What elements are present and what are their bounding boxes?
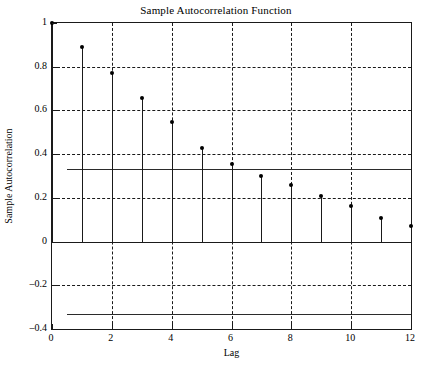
x-axis-tick-labels: 024681012 [51,333,412,347]
x-tick-label: 10 [330,333,370,343]
stem-line [411,226,412,241]
stem-line [112,73,113,241]
data-point-marker [170,120,174,124]
y-tick-mark [52,285,57,286]
x-tick-mark [172,324,173,329]
stem-line [172,122,173,241]
x-tick-label: 0 [31,333,71,343]
data-point-marker [230,162,234,166]
data-point-marker [80,45,84,49]
y-tick-label: 1 [3,17,47,27]
x-tick-mark [112,324,113,329]
stem-line [82,47,83,242]
data-point-marker [259,174,263,178]
x-tick-mark [52,324,53,329]
y-tick-mark [52,110,57,111]
gridline-vertical [291,23,292,329]
x-tick-label: 6 [211,333,251,343]
lower-confidence-bound [67,314,411,315]
data-point-marker [110,71,114,75]
x-tick-mark [411,324,412,329]
y-tick-mark [52,198,57,199]
stem-line [321,196,322,242]
x-tick-label: 4 [151,333,191,343]
x-tick-mark [291,324,292,329]
data-point-marker [409,224,413,228]
data-point-marker [349,204,353,208]
chart-title: Sample Autocorrelation Function [0,4,432,16]
stem-line [291,185,292,242]
y-tick-label: 0.8 [3,61,47,71]
y-tick-label: 0.2 [3,192,47,202]
zero-line [52,242,411,243]
y-tick-label: –0.4 [3,323,47,333]
stem-line [381,218,382,242]
data-point-marker [200,146,204,150]
data-point-marker [319,194,323,198]
stem-line [142,98,143,241]
y-tick-mark [52,67,57,68]
y-tick-label: 0 [3,236,47,246]
data-point-marker [140,96,144,100]
x-tick-label: 8 [270,333,310,343]
upper-confidence-bound [67,169,411,170]
stem-line [202,148,203,242]
plot-area [51,22,412,330]
stem-line [351,206,352,242]
stem-line [232,164,233,242]
data-point-marker [289,183,293,187]
gridline-vertical [351,23,352,329]
x-tick-label: 2 [91,333,131,343]
x-axis-label: Lag [51,347,412,358]
stem-line [261,176,262,242]
y-axis-tick-labels: –0.4–0.200.20.40.60.81 [0,22,47,330]
data-point-marker [379,216,383,220]
y-tick-label: –0.2 [3,279,47,289]
y-tick-mark [52,154,57,155]
stem-line [52,23,53,242]
x-tick-mark [232,324,233,329]
y-tick-mark [52,23,57,24]
y-tick-label: 0.6 [3,104,47,114]
x-tick-mark [351,324,352,329]
autocorrelation-figure: Sample Autocorrelation Function Sample A… [0,0,432,365]
y-tick-mark [52,242,57,243]
x-tick-label: 12 [390,333,430,343]
y-tick-mark [52,329,57,330]
y-tick-label: 0.4 [3,148,47,158]
